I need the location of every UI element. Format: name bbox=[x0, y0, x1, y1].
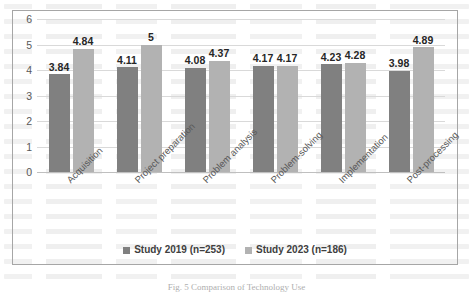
bar: 4.11 bbox=[117, 67, 138, 172]
bar-value-label: 4.08 bbox=[185, 55, 205, 66]
bar-value-label: 4.17 bbox=[253, 53, 273, 64]
gridline-0 bbox=[37, 172, 445, 173]
chart-legend: Study 2019 (n=253)Study 2023 (n=186) bbox=[13, 245, 457, 255]
bar-value-label: 4.37 bbox=[209, 48, 229, 59]
bar-value-label: 3.98 bbox=[389, 58, 409, 69]
y-tick-label-6: 6 bbox=[26, 14, 32, 25]
bar-value-label: 3.84 bbox=[49, 62, 69, 73]
chart-frame: 0123456 3.844.844.1154.084.374.174.174.2… bbox=[12, 10, 458, 265]
bar-value-label: 4.89 bbox=[413, 35, 433, 46]
y-tick-label-5: 5 bbox=[26, 39, 32, 50]
bleed-text-line bbox=[4, 274, 469, 279]
y-tick-label-2: 2 bbox=[26, 116, 32, 127]
y-tick-label-3: 3 bbox=[26, 90, 32, 101]
legend-label: Study 2019 (n=253) bbox=[134, 245, 225, 255]
bleed-text-line bbox=[4, 4, 469, 9]
y-tick-label-1: 1 bbox=[26, 141, 32, 152]
y-tick-label-0: 0 bbox=[26, 167, 32, 178]
legend-item[interactable]: Study 2023 (n=186) bbox=[245, 245, 347, 255]
legend-label: Study 2023 (n=186) bbox=[256, 245, 347, 255]
legend-swatch-icon bbox=[123, 247, 130, 254]
bar-value-label: 4.11 bbox=[117, 55, 137, 66]
legend-item[interactable]: Study 2019 (n=253) bbox=[123, 245, 225, 255]
bar-value-label: 4.17 bbox=[277, 53, 297, 64]
y-tick-label-4: 4 bbox=[26, 65, 32, 76]
bar-value-label: 4.84 bbox=[73, 36, 93, 47]
bar: 3.84 bbox=[49, 74, 70, 172]
bar: 3.98 bbox=[389, 71, 410, 172]
bar: 4.17 bbox=[253, 66, 274, 172]
bar-value-label: 4.23 bbox=[321, 52, 341, 63]
bar-value-label: 5 bbox=[148, 32, 154, 43]
bar: 4.23 bbox=[321, 64, 342, 172]
bar-value-label: 4.28 bbox=[345, 50, 365, 61]
legend-swatch-icon bbox=[245, 247, 252, 254]
figure-caption: Fig. 5 Comparison of Technology Use bbox=[0, 282, 473, 292]
x-axis-category-labels: AcquisitionProject preparationProblem an… bbox=[37, 174, 445, 246]
